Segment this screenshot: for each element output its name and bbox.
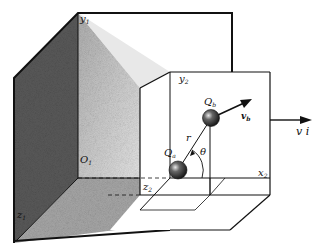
frame-velocity-label: v i — [296, 125, 309, 138]
reference-frames-diagram: y1 O1 z1 y2 x2 z2 Qa Qb r θ vb v i — [0, 0, 323, 243]
charge-b-sphere — [203, 110, 220, 127]
theta-label: θ — [200, 146, 206, 157]
frame-velocity-arrowhead — [300, 116, 312, 124]
charge-a-sphere — [169, 161, 187, 179]
frame2-front-face — [140, 72, 270, 195]
y1-label: y1 — [79, 13, 89, 25]
